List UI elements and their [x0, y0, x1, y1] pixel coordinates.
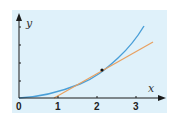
x-tick-label-2: 2	[94, 101, 100, 112]
x-axis-label: x	[148, 82, 155, 95]
tangent-line-diagram: 0 1 2 3 x y	[0, 0, 173, 121]
x-tick-label-1: 1	[55, 101, 61, 112]
x-tick-label-0: 0	[16, 101, 22, 112]
x-tick-label-3: 3	[133, 101, 139, 112]
tangent-point	[100, 68, 103, 71]
y-axis-label: y	[25, 17, 33, 30]
